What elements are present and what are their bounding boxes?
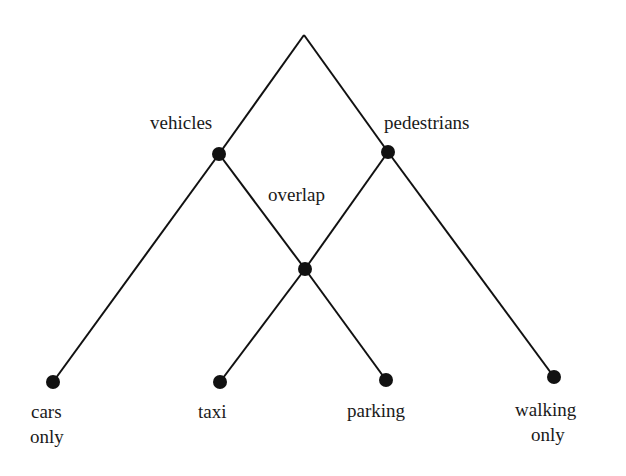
node-cars-only xyxy=(46,375,60,389)
edge-vehicles-overlap xyxy=(219,154,305,269)
label-walking-line1: walking xyxy=(515,399,577,420)
node-vehicles xyxy=(212,147,226,161)
label-taxi: taxi xyxy=(198,401,227,422)
node-overlap xyxy=(298,262,312,276)
label-vehicles: vehicles xyxy=(150,112,212,133)
edge-vehicles-cars-only xyxy=(53,154,219,382)
edge-root-vehicles xyxy=(219,35,304,154)
node-parking xyxy=(379,373,393,387)
edge-pedestrians-walking-only xyxy=(388,152,554,377)
node-pedestrians xyxy=(381,145,395,159)
node-walking-only xyxy=(547,370,561,384)
labels: vehicles pedestrians overlap cars only t… xyxy=(30,112,577,447)
edge-overlap-parking xyxy=(305,269,386,380)
label-parking: parking xyxy=(347,400,406,421)
edges xyxy=(53,35,554,382)
label-cars-line1: cars xyxy=(31,401,62,422)
nodes xyxy=(46,145,561,389)
label-cars-line2: only xyxy=(30,426,64,447)
node-taxi xyxy=(213,375,227,389)
label-overlap: overlap xyxy=(268,184,325,205)
lattice-diagram: vehicles pedestrians overlap cars only t… xyxy=(0,0,626,476)
edge-root-pedestrians xyxy=(304,35,388,152)
label-walking-line2: only xyxy=(531,424,565,445)
edge-pedestrians-overlap xyxy=(305,152,388,269)
edge-overlap-taxi xyxy=(220,269,305,382)
label-pedestrians: pedestrians xyxy=(384,112,469,133)
